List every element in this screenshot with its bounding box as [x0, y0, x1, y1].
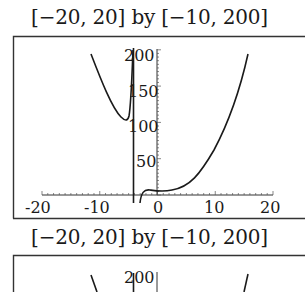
x-tick-label: 10	[204, 198, 224, 217]
x-tick-label: 0	[153, 198, 163, 217]
plot-panel-2: 200	[0, 252, 299, 292]
curve-left-branch	[91, 275, 97, 292]
x-tick-label: -20	[25, 198, 51, 217]
x-tick-label: 20	[260, 198, 280, 217]
y-tick-label: 200	[124, 268, 155, 287]
chart-title-top: [−20, 20] by [−10, 200]	[0, 6, 299, 28]
x-tick-label: -10	[84, 198, 110, 217]
y-tick-label: 150	[128, 82, 159, 101]
chart-title-bottom: [−20, 20] by [−10, 200]	[0, 226, 299, 248]
plot-panel-1: 200 150 100 50 -20 -10 0 10 20	[0, 34, 299, 224]
curve-right-branch	[244, 274, 248, 292]
y-tick-label: 100	[128, 117, 159, 136]
y-tick-label: 200	[124, 46, 155, 65]
y-tick-label: 50	[136, 152, 156, 171]
plot-frame	[14, 256, 306, 292]
